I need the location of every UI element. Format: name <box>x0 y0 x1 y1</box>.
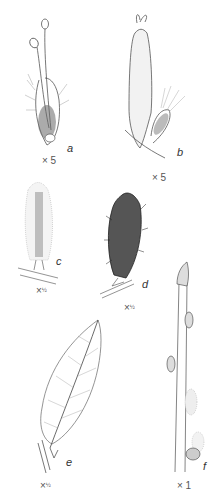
figure-d-male-catkin: d <box>98 190 158 300</box>
figure-d-scale: ×½ <box>124 302 135 313</box>
female-flower-drawing <box>125 8 195 158</box>
male-catkin-drawing <box>98 190 158 300</box>
figure-c-scale: ×½ <box>36 285 47 296</box>
male-flower-drawing <box>25 10 75 150</box>
figure-a-letter: a <box>67 142 73 154</box>
figure-e-leaf: e <box>28 318 108 473</box>
figure-b-letter: b <box>177 146 183 158</box>
leaf-drawing <box>28 318 108 473</box>
figure-f-twig: f <box>165 262 215 477</box>
figure-f-letter: f <box>203 460 206 472</box>
figure-e-letter: e <box>66 456 72 468</box>
figure-a-scale: × 5 <box>42 155 56 166</box>
figure-b-scale: × 5 <box>152 172 166 183</box>
figure-c-scale-fraction: ½ <box>42 287 47 293</box>
figure-d-scale-fraction: ½ <box>130 304 135 310</box>
figure-d-letter: d <box>142 278 148 290</box>
figure-b-female-flower: b <box>125 8 195 158</box>
figure-f-scale: × 1 <box>177 480 191 491</box>
figure-c-female-catkin: c <box>18 180 63 280</box>
figure-e-scale-fraction: ½ <box>46 482 51 488</box>
figure-c-letter: c <box>56 255 62 267</box>
twig-drawing <box>165 262 215 477</box>
figure-a-male-flower: a <box>25 10 75 150</box>
figure-e-scale: ×½ <box>40 480 51 491</box>
